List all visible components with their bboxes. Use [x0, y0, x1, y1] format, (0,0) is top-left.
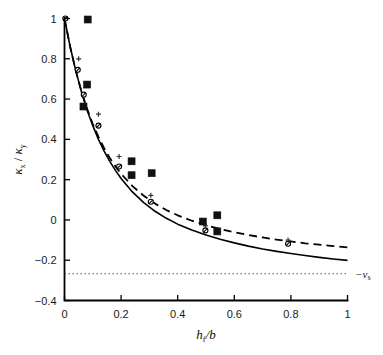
- y-tick-label: 0.4: [41, 133, 56, 145]
- axis-spines: [65, 18, 348, 301]
- axes-layer: [65, 18, 348, 301]
- marker-filled-square: [84, 16, 91, 23]
- x-tick-label: 0.2: [113, 308, 128, 320]
- marker-filled-square: [148, 170, 155, 177]
- x-tick-label: 0.6: [227, 308, 242, 320]
- x-axis-label: hf/b: [196, 327, 216, 344]
- x-tick-label: 0: [61, 308, 67, 320]
- marker-plus: [117, 154, 122, 159]
- series-layer: [63, 16, 348, 274]
- marker-filled-square: [84, 81, 91, 88]
- series-circle-slash-data: [63, 16, 291, 246]
- series-plus-data: [76, 56, 290, 242]
- curve-dashed: [65, 19, 348, 248]
- marker-circle-slash: [203, 228, 208, 233]
- y-tick-label: 0.8: [41, 53, 56, 65]
- y-tick-label: 0: [50, 214, 56, 226]
- marker-filled-square: [214, 228, 221, 235]
- marker-plus: [148, 193, 153, 198]
- poisson-ratio-asymptote-label: −νs: [355, 268, 370, 283]
- marker-filled-square: [80, 103, 87, 110]
- y-tick-label: −0.2: [35, 254, 57, 266]
- marker-plus: [96, 112, 101, 117]
- y-tick-label: 0.6: [41, 93, 56, 105]
- marker-filled-square: [199, 218, 206, 225]
- marker-circle-slash: [81, 92, 86, 97]
- marker-filled-square: [128, 172, 135, 179]
- annotation-layer: −νs: [355, 268, 370, 283]
- marker-circle-slash: [75, 67, 80, 72]
- marker-filled-square: [214, 212, 221, 219]
- figure-container: −0.4−0.200.20.40.60.8100.20.40.60.81 −νs…: [0, 0, 383, 355]
- x-tick-label: 1: [344, 308, 350, 320]
- marker-circle-slash: [148, 199, 153, 204]
- y-axis-label: κx / κy: [10, 144, 27, 175]
- x-tick-label: 0.8: [283, 308, 298, 320]
- marker-circle-slash: [117, 164, 122, 169]
- x-tick-label: 0.4: [170, 308, 185, 320]
- y-tick-label: 1: [50, 13, 56, 25]
- marker-plus: [76, 56, 81, 61]
- y-tick-label: −0.4: [35, 295, 57, 307]
- y-tick-label: 0.2: [41, 174, 56, 186]
- series-model-dashed: [65, 19, 348, 248]
- marker-filled-square: [128, 158, 135, 165]
- scatter-plot: −0.4−0.200.20.40.60.8100.20.40.60.81 −νs…: [0, 0, 383, 355]
- marker-circle-slash: [96, 123, 101, 128]
